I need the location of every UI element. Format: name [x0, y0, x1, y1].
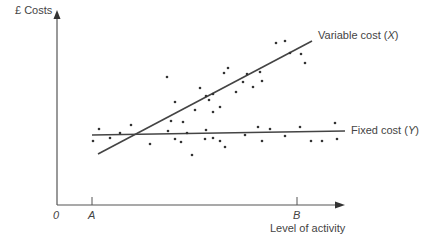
data-point — [224, 146, 227, 149]
marker-b-label: B — [293, 209, 300, 221]
data-point — [174, 138, 177, 141]
data-point — [275, 42, 278, 45]
data-point — [149, 143, 152, 146]
data-point — [219, 140, 222, 143]
data-point — [170, 120, 173, 123]
data-point — [289, 52, 292, 55]
data-point — [109, 137, 112, 140]
data-point — [261, 140, 264, 143]
data-point — [174, 101, 177, 104]
data-point — [227, 67, 230, 70]
data-point — [242, 81, 245, 84]
data-point — [321, 140, 324, 143]
data-point — [284, 135, 287, 138]
data-point — [259, 71, 262, 74]
data-point — [166, 76, 169, 79]
marker-a-label: A — [88, 209, 95, 221]
data-point — [269, 128, 272, 131]
data-point — [205, 95, 208, 98]
data-point — [199, 87, 202, 90]
data-point — [284, 40, 287, 43]
data-point — [219, 106, 222, 109]
trend-lines — [92, 41, 345, 154]
y-axis-label: £ Costs — [15, 4, 52, 16]
data-point — [208, 99, 211, 102]
data-point — [182, 121, 185, 124]
data-point — [191, 154, 194, 157]
variable-cost-label: Variable cost (X) — [318, 29, 399, 41]
data-point — [235, 91, 238, 94]
data-point — [212, 93, 215, 96]
data-point — [180, 141, 183, 144]
data-point — [205, 129, 208, 132]
y-axis-arrow-icon — [54, 10, 61, 19]
data-point — [246, 73, 249, 76]
x-axis-arrow-icon — [335, 202, 345, 209]
data-point — [334, 122, 337, 125]
axes — [54, 10, 346, 209]
data-point — [204, 138, 207, 141]
data-point — [223, 72, 226, 75]
data-point — [194, 109, 197, 112]
data-point — [300, 53, 303, 56]
variable-cost-line — [98, 41, 312, 154]
data-points — [92, 40, 339, 157]
data-point — [212, 111, 215, 114]
x-axis-label: Level of activity — [270, 222, 345, 234]
data-point — [119, 132, 122, 135]
data-point — [167, 130, 170, 133]
data-point — [257, 126, 260, 129]
data-point — [98, 128, 101, 131]
fixed-cost-label: Fixed cost (Y) — [351, 124, 419, 136]
fixed-cost-line — [92, 131, 345, 135]
data-point — [336, 138, 339, 141]
origin-label: 0 — [53, 209, 59, 221]
data-point — [310, 140, 313, 143]
data-point — [261, 80, 264, 83]
data-point — [304, 62, 307, 65]
data-point — [244, 134, 247, 137]
data-point — [299, 126, 302, 129]
data-point — [252, 86, 255, 89]
data-point — [186, 132, 189, 135]
data-point — [212, 137, 215, 140]
data-point — [92, 140, 95, 143]
data-point — [130, 124, 133, 127]
